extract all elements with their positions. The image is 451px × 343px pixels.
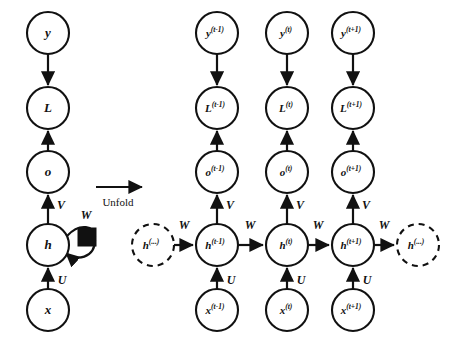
folded-node-x-label: x [44, 302, 52, 317]
folded-node-h-label: h [44, 237, 51, 252]
weight-V-t: V [296, 198, 305, 212]
weight-U-t-plus-1: U [363, 273, 373, 287]
folded-weight-U: U [58, 273, 68, 287]
recurrent-weight-W-0: W [179, 218, 191, 232]
folded-weight-W: W [81, 208, 93, 222]
timestep-column-t-minus-1: y(t-1) L(t-1) o(t-1) h(t-1) x(t-1) V U [196, 12, 238, 331]
weight-U-t-minus-1: U [227, 273, 237, 287]
recurrent-weight-W-3: W [379, 218, 391, 232]
folded-node-o-label: o [45, 164, 52, 179]
recurrent-weight-W-1: W [245, 218, 257, 232]
weight-U-t: U [297, 273, 307, 287]
timestep-column-t: y(t) L(t) o(t) h(t) x(t) V U [266, 12, 308, 331]
folded-node-y-label: y [43, 25, 51, 40]
weight-V-t-plus-1: V [362, 198, 371, 212]
folded-node-L-label: L [43, 100, 52, 115]
unfold-label: Unfold [102, 196, 134, 208]
timestep-column-t-plus-1: y(t+1) L(t+1) o(t+1) h(t+1) x(t+1) V U [332, 12, 374, 331]
weight-V-t-minus-1: V [226, 198, 235, 212]
unfold-transition-group: Unfold [96, 187, 142, 208]
folded-weight-V: V [57, 198, 66, 212]
unfolded-rnn-group: h(...) W W W W h(...) y(t-1) L( [132, 12, 439, 331]
delay-square-node [78, 228, 96, 246]
recurrent-weight-W-2: W [313, 218, 325, 232]
folded-rnn-group: y L o h x V U W [27, 12, 96, 331]
rnn-unfolding-diagram: y L o h x V U W Unfold h(...) W W W W [0, 0, 451, 343]
